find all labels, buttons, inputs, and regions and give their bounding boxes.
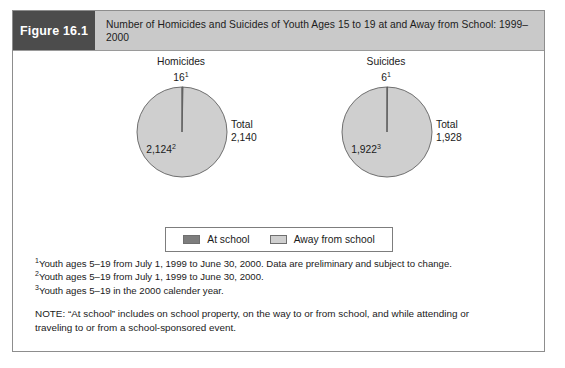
legend-label-at-school: At school [207,234,249,245]
figure-container: Figure 16.1 Number of Homicides and Suic… [12,10,545,352]
homicides-away-value: 2,1242 [101,144,221,155]
homicides-pie-chart [136,86,228,178]
homicides-at-school-footnote-marker: 1 [185,71,189,78]
footnote-1-text: Youth ages 5–19 from July 1, 1999 to Jun… [39,258,452,269]
homicides-pie-wrap: 2,1242 Total 2,140 [101,86,261,182]
suicides-total: Total 1,928 [436,118,462,144]
suicides-caption: Suicides [306,55,466,69]
homicides-total: Total 2,140 [231,118,257,144]
figure-number-badge: Figure 16.1 [13,11,95,50]
footnote-2-text: Youth ages 5–19 from July 1, 1999 to Jun… [39,271,264,282]
homicides-at-school-number: 16 [173,72,184,83]
homicides-total-word: Total [231,118,257,131]
legend-label-away-from-school: Away from school [294,234,375,245]
figure-header: Figure 16.1 Number of Homicides and Suic… [13,11,544,51]
suicides-pie-chart [341,86,433,178]
suicides-away-value: 1,9223 [306,144,426,155]
footnote-3: 3Youth ages 5–19 in the 2000 calender ye… [35,284,513,297]
footnotes-block: 1Youth ages 5–19 from July 1, 1999 to Ju… [35,257,513,297]
chart-legend: At school Away from school [165,227,393,252]
suicides-pie-wrap: 1,9223 Total 1,928 [306,86,466,182]
figure-note: NOTE: “At school” includes on school pro… [35,307,505,335]
footnote-1: 1Youth ages 5–19 from July 1, 1999 to Ju… [35,257,513,270]
figure-title: Number of Homicides and Suicides of Yout… [95,11,544,50]
legend-item-at-school: At school [183,234,249,245]
plot-area: Homicides 161 2,1242 Total 2,140 Suicide… [13,51,544,241]
suicides-total-word: Total [436,118,462,131]
homicides-total-value: 2,140 [231,131,257,144]
suicides-at-school-value: 61 [306,71,466,85]
homicides-away-number: 2,124 [146,144,172,155]
suicides-at-school-footnote-marker: 1 [387,71,391,78]
footnote-2: 2Youth ages 5–19 from July 1, 1999 to Ju… [35,270,513,283]
homicides-pie-group: Homicides 161 2,1242 Total 2,140 [101,55,261,182]
legend-swatch-at-school-icon [183,235,200,244]
homicides-at-school-value: 161 [101,71,261,85]
suicides-total-value: 1,928 [436,131,462,144]
footnote-3-text: Youth ages 5–19 in the 2000 calender yea… [39,285,224,296]
legend-swatch-away-from-school-icon [270,235,287,244]
legend-item-away-from-school: Away from school [270,234,375,245]
suicides-away-number: 1,922 [351,144,377,155]
homicides-away-footnote-marker: 2 [172,143,176,150]
homicides-caption: Homicides [101,55,261,69]
suicides-pie-group: Suicides 61 1,9223 Total 1,928 [306,55,466,182]
suicides-away-footnote-marker: 3 [377,143,381,150]
